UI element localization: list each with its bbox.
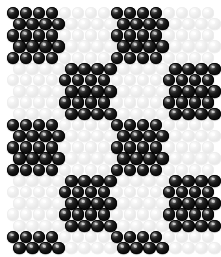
bead-dark — [98, 96, 110, 108]
bead-dark — [163, 208, 175, 220]
bead-faint — [7, 96, 19, 108]
bead-dark — [13, 242, 25, 254]
bead-faint — [104, 242, 116, 254]
bead-faint — [208, 242, 220, 254]
bead-faint — [137, 96, 149, 108]
bead-dark — [104, 63, 116, 75]
bead-faint — [124, 96, 136, 108]
bead-dark — [189, 96, 201, 108]
bead-dark — [195, 220, 207, 232]
bead-dark — [78, 220, 90, 232]
bead-faint — [46, 96, 58, 108]
bead-faint — [104, 40, 116, 52]
bead-dark — [13, 152, 25, 164]
bead-dark — [39, 40, 51, 52]
bead-dark — [169, 220, 181, 232]
bead-dark — [156, 40, 168, 52]
bead-faint — [20, 96, 32, 108]
bead-dark — [111, 52, 123, 64]
bead-faint — [65, 40, 77, 52]
bead-faint — [169, 152, 181, 164]
bead-dark — [176, 96, 188, 108]
bead-dark — [176, 208, 188, 220]
bead-dark — [20, 164, 32, 176]
bead-dark — [143, 152, 155, 164]
bead-dark — [85, 208, 97, 220]
bead-dark — [78, 108, 90, 120]
bead-dark — [117, 40, 129, 52]
bead-dark — [117, 152, 129, 164]
bead-dark — [130, 152, 142, 164]
bead-faint — [182, 242, 194, 254]
bead-dark — [52, 40, 64, 52]
bead-dark — [72, 208, 84, 220]
bead-dark — [143, 242, 155, 254]
bead-dark — [85, 96, 97, 108]
bead-faint — [65, 152, 77, 164]
bead-faint — [137, 208, 149, 220]
bead-dark — [130, 40, 142, 52]
bead-faint — [195, 152, 207, 164]
bead-dark — [202, 208, 214, 220]
bead-faint — [78, 242, 90, 254]
bead-faint — [104, 152, 116, 164]
bead-dark — [91, 220, 103, 232]
bead-dark — [7, 164, 19, 176]
bead-lattice — [0, 0, 221, 257]
bead-dark — [150, 164, 162, 176]
bead-dark — [130, 242, 142, 254]
bead-dark — [163, 96, 175, 108]
bead-dark — [208, 63, 220, 75]
bead-dark — [39, 152, 51, 164]
bead-dark — [124, 52, 136, 64]
bead-dark — [169, 108, 181, 120]
bead-dark — [65, 220, 77, 232]
bead-dark — [137, 164, 149, 176]
bead-dark — [156, 152, 168, 164]
bead-dark — [182, 220, 194, 232]
bead-faint — [33, 96, 45, 108]
bead-dark — [156, 242, 168, 254]
bead-faint — [169, 242, 181, 254]
bead-faint — [65, 242, 77, 254]
bead-dark — [13, 40, 25, 52]
bead-dark — [39, 242, 51, 254]
bead-dark — [98, 208, 110, 220]
bead-dark — [124, 164, 136, 176]
bead-dark — [20, 52, 32, 64]
bead-faint — [111, 96, 123, 108]
bead-faint — [111, 208, 123, 220]
bead-faint — [169, 40, 181, 52]
bead-faint — [208, 40, 220, 52]
bead-dark — [26, 40, 38, 52]
bead-dark — [137, 52, 149, 64]
bead-dark — [65, 108, 77, 120]
bead-faint — [33, 208, 45, 220]
bead-faint — [91, 40, 103, 52]
bead-dark — [52, 242, 64, 254]
bead-faint — [124, 208, 136, 220]
pattern-canvas: Hexagonally packed bead checkerboard Dar… — [0, 0, 221, 257]
bead-dark — [111, 164, 123, 176]
bead-faint — [7, 208, 19, 220]
bead-dark — [104, 175, 116, 187]
bead-dark — [46, 164, 58, 176]
bead-faint — [195, 40, 207, 52]
bead-dark — [7, 52, 19, 64]
bead-faint — [46, 208, 58, 220]
bead-dark — [59, 96, 71, 108]
bead-faint — [20, 208, 32, 220]
bead-dark — [182, 108, 194, 120]
bead-faint — [91, 152, 103, 164]
bead-dark — [72, 96, 84, 108]
bead-dark — [150, 52, 162, 64]
bead-dark — [26, 152, 38, 164]
bead-faint — [208, 152, 220, 164]
bead-dark — [143, 40, 155, 52]
bead-dark — [46, 52, 58, 64]
bead-dark — [52, 152, 64, 164]
bead-dark — [59, 208, 71, 220]
bead-faint — [182, 40, 194, 52]
bead-dark — [195, 108, 207, 120]
bead-dark — [117, 242, 129, 254]
